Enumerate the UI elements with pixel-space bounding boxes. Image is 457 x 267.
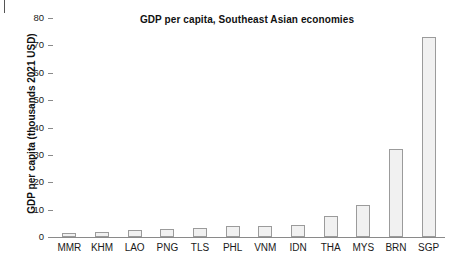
bar-png xyxy=(160,229,174,237)
y-axis-tick-label: 70 xyxy=(16,40,44,50)
y-axis-tick-label-wrap: 60 xyxy=(14,68,44,78)
plot-area xyxy=(53,18,445,237)
bar-khm xyxy=(95,232,109,237)
x-axis-tick-label-sgp: SGP xyxy=(407,243,451,253)
bar-mys xyxy=(356,205,370,237)
y-axis-tick-label: 20 xyxy=(16,177,44,187)
bar-phl xyxy=(226,226,240,237)
y-axis-tick-label-wrap: 70 xyxy=(14,40,44,50)
y-axis-tick-label: 80 xyxy=(16,13,44,23)
bar-tls xyxy=(193,228,207,237)
y-axis-tick-label: 10 xyxy=(16,205,44,215)
bar-brn xyxy=(389,149,403,237)
y-axis-tick-label-wrap: 0 xyxy=(14,232,44,242)
bar-idn xyxy=(291,225,305,237)
y-axis-tick-label-wrap: 20 xyxy=(14,177,44,187)
bar-vnm xyxy=(258,226,272,237)
y-axis-tick-label: 40 xyxy=(16,123,44,133)
y-axis-tick-label-wrap: 30 xyxy=(14,150,44,160)
bar-sgp xyxy=(422,37,436,237)
y-axis-tick-label-wrap: 40 xyxy=(14,123,44,133)
y-axis-tick-label: 0 xyxy=(16,232,44,242)
x-axis-line xyxy=(53,237,445,238)
page-edge-artifact xyxy=(4,0,5,13)
bar-lao xyxy=(128,230,142,237)
y-axis-tick-label: 60 xyxy=(16,68,44,78)
y-axis-tick-label: 30 xyxy=(16,150,44,160)
y-axis-tick-label-wrap: 50 xyxy=(14,95,44,105)
y-axis-tick-label: 50 xyxy=(16,95,44,105)
bar-tha xyxy=(324,216,338,237)
y-axis-tick-label-wrap: 10 xyxy=(14,205,44,215)
y-axis-tick-label-wrap: 80 xyxy=(14,13,44,23)
bar-mmr xyxy=(62,233,76,237)
bar-chart-figure: GDP per capita, Southeast Asian economie… xyxy=(0,0,457,267)
